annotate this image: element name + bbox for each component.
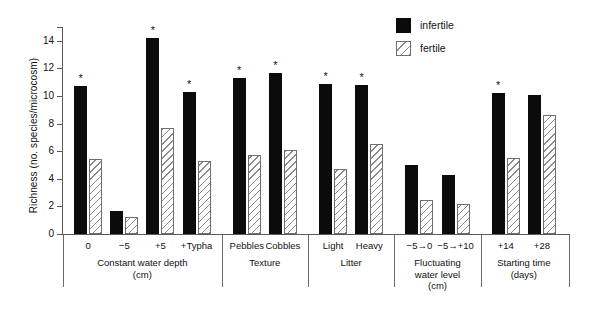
chart-legend: infertile fertile <box>396 16 546 62</box>
bar-infertile <box>442 175 455 234</box>
legend-label: infertile <box>420 20 454 31</box>
group-title-line: Starting time <box>454 257 592 269</box>
bar-fertile <box>370 144 383 234</box>
bar-fertile <box>507 158 520 234</box>
group-title: Constant water depth(cm) <box>72 257 212 280</box>
bar-fertile <box>543 115 556 234</box>
significance-marker: * <box>352 72 371 83</box>
significance-marker: * <box>230 65 249 76</box>
legend-swatch-fertile-icon <box>396 41 411 56</box>
legend-item: infertile <box>396 16 546 34</box>
legend-item: fertile <box>396 39 546 57</box>
bar-infertile <box>269 73 282 234</box>
bar-infertile <box>492 93 505 234</box>
bar-infertile <box>528 95 541 234</box>
chart-figure: Richness (no. species/microcosm) 0246810… <box>0 0 592 326</box>
bar-fertile <box>420 200 433 235</box>
bar-fertile <box>248 155 261 234</box>
y-axis-tick-label: 6 <box>20 146 54 156</box>
bar-infertile <box>146 38 159 234</box>
y-axis-tick-label: 8 <box>20 119 54 129</box>
legend-label: fertile <box>420 43 446 54</box>
group-title-line: Constant water depth <box>72 257 212 269</box>
y-axis-tick-label: 2 <box>20 201 54 211</box>
y-axis-tick-label: 4 <box>20 174 54 184</box>
significance-marker: * <box>143 25 162 36</box>
significance-marker: * <box>180 79 199 90</box>
bar-infertile <box>74 86 87 234</box>
group-title-line: (cm) <box>72 269 212 281</box>
y-axis-tick-label: 14 <box>20 36 54 46</box>
y-axis-tick-label: 12 <box>20 63 54 73</box>
group-title-line: (cm) <box>368 280 508 292</box>
significance-marker: * <box>266 60 285 71</box>
group-title-line: (days) <box>454 269 592 281</box>
significance-marker: * <box>316 71 335 82</box>
bar-infertile <box>110 211 123 234</box>
bar-fertile <box>89 159 102 234</box>
bar-fertile <box>198 161 211 234</box>
bar-infertile <box>183 92 196 234</box>
significance-marker: * <box>71 73 90 84</box>
y-axis-tick-labels: 02468101214 <box>20 27 54 235</box>
bar-infertile <box>319 84 332 234</box>
bar-fertile <box>284 150 297 234</box>
bar-infertile <box>355 85 368 234</box>
bar-fertile <box>161 128 174 234</box>
bar-fertile <box>334 169 347 234</box>
group-separator <box>63 235 64 287</box>
x-axis-category-label: +28 <box>506 240 578 251</box>
bar-infertile <box>233 78 246 234</box>
y-axis-tick-label: 10 <box>20 91 54 101</box>
significance-marker: * <box>489 80 508 91</box>
bar-fertile <box>125 217 138 234</box>
bar-infertile <box>405 165 418 234</box>
legend-swatch-infertile-icon <box>396 18 411 33</box>
bar-fertile <box>457 204 470 234</box>
y-axis-tick-label: 0 <box>20 229 54 239</box>
group-title: Starting time(days) <box>454 257 592 280</box>
